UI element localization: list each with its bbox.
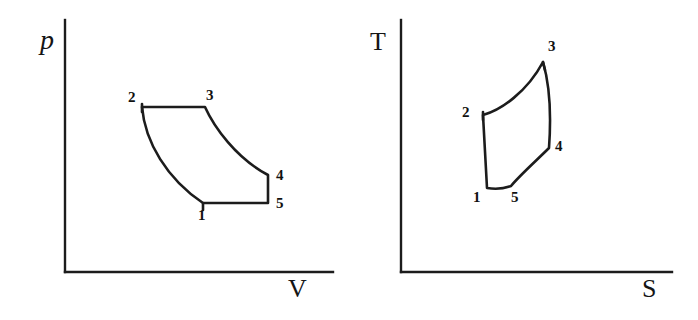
pv-state-label-5: 5 <box>276 196 284 211</box>
pv-cycle-path <box>142 107 268 203</box>
ts-cycle-path <box>483 62 550 189</box>
ts-y-axis-label: T <box>370 29 386 55</box>
ts-vertex-3-tick <box>543 62 545 70</box>
temperature-entropy-plot-svg <box>349 0 698 320</box>
ts-x-axis-label: S <box>642 276 656 302</box>
pv-x-axis-label: V <box>288 276 307 302</box>
pv-state-label-1: 1 <box>198 208 206 223</box>
pv-state-label-4: 4 <box>276 168 284 183</box>
ts-state-label-2: 2 <box>462 105 470 120</box>
pv-state-label-2: 2 <box>128 90 136 105</box>
ts-state-label-1: 1 <box>473 190 481 205</box>
ts-state-label-4: 4 <box>555 139 563 154</box>
pv-state-label-3: 3 <box>206 88 214 103</box>
pv-y-axis-label: p <box>40 26 54 54</box>
figure-root: p V 1 2 3 4 5 T S 1 2 3 4 5 <box>0 0 698 320</box>
temperature-entropy-panel: T S 1 2 3 4 5 <box>349 0 698 320</box>
pressure-volume-panel: p V 1 2 3 4 5 <box>0 0 349 320</box>
ts-state-label-5: 5 <box>511 190 519 205</box>
ts-state-label-3: 3 <box>548 39 556 54</box>
